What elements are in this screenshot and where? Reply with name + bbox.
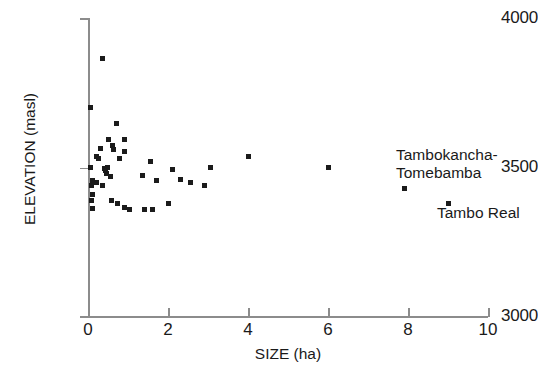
data-point xyxy=(122,137,127,142)
data-point xyxy=(89,198,94,203)
y-tick-4000 xyxy=(80,18,88,20)
y-axis-title: ELEVATION (masl) xyxy=(21,49,39,269)
x-tick-0 xyxy=(88,308,90,317)
annotation-line-1: Tambo Real xyxy=(437,204,520,222)
data-point xyxy=(170,167,175,172)
x-tick-label-10: 10 xyxy=(468,320,508,340)
data-point xyxy=(109,198,114,203)
x-axis-title: SIZE (ha) xyxy=(88,345,488,363)
x-tick-label-4: 4 xyxy=(228,320,268,340)
data-point xyxy=(117,156,122,161)
scatter-plot-figure: 4000 3500 3000 0 2 4 6 8 10 ELEVATION (m… xyxy=(0,0,538,377)
x-tick-2 xyxy=(168,308,170,317)
data-point xyxy=(98,146,103,151)
x-tick-label-0: 0 xyxy=(68,320,108,340)
x-tick-4 xyxy=(248,308,250,317)
x-axis-line xyxy=(88,316,488,318)
data-point xyxy=(115,201,120,206)
data-point xyxy=(188,180,193,185)
data-point xyxy=(90,192,95,197)
data-point xyxy=(142,207,147,212)
data-point xyxy=(90,206,95,211)
data-point xyxy=(114,121,119,126)
data-point xyxy=(202,183,207,188)
x-tick-label-6: 6 xyxy=(308,320,348,340)
data-point xyxy=(140,173,145,178)
data-point xyxy=(111,147,116,152)
y-tick-3000 xyxy=(80,316,88,318)
data-point xyxy=(402,186,407,191)
data-point xyxy=(326,165,331,170)
data-point xyxy=(127,207,132,212)
data-point xyxy=(108,174,113,179)
data-point xyxy=(246,154,251,159)
annotation-tambo-real: Tambo Real xyxy=(437,204,520,222)
annotation-line-1: Tambokancha- xyxy=(396,146,498,164)
x-tick-10 xyxy=(488,308,490,317)
data-point xyxy=(88,105,93,110)
data-point xyxy=(178,177,183,182)
data-point xyxy=(208,165,213,170)
data-point xyxy=(106,137,111,142)
annotation-line-2: Tomebamba xyxy=(396,164,498,182)
y-tick-label-4000: 4000 xyxy=(462,8,538,28)
x-tick-6 xyxy=(328,308,330,317)
x-tick-label-8: 8 xyxy=(388,320,428,340)
x-tick-label-2: 2 xyxy=(148,320,188,340)
data-point xyxy=(122,149,127,154)
data-point xyxy=(154,178,159,183)
data-point xyxy=(96,156,101,161)
data-point xyxy=(88,165,93,170)
data-point xyxy=(94,180,99,185)
x-tick-8 xyxy=(408,308,410,317)
data-point xyxy=(148,159,153,164)
data-point xyxy=(100,183,105,188)
data-point xyxy=(150,207,155,212)
data-point xyxy=(166,201,171,206)
data-point xyxy=(89,183,94,188)
annotation-tambokancha-tomebamba: Tambokancha- Tomebamba xyxy=(396,146,498,183)
data-point xyxy=(100,56,105,61)
